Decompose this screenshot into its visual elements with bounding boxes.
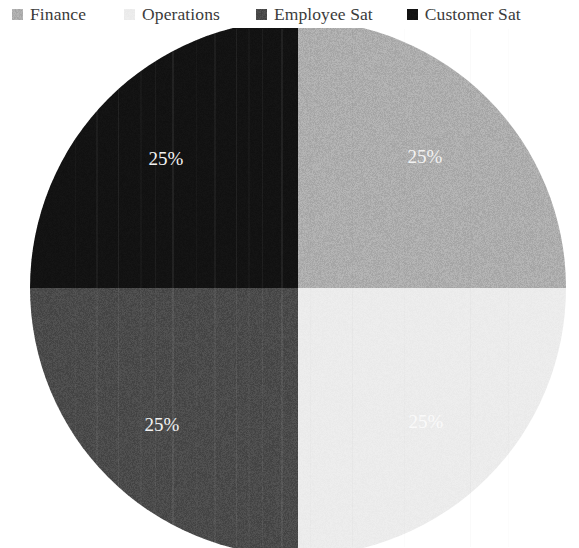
pie-slice-label: 25% [149,148,184,169]
chart-legend: Finance Operations Employee Sat Customer… [0,0,579,28]
chart-plot-area: 25% 25% 25% 25% [0,28,579,548]
pie-slice-label: 25% [408,146,443,167]
pie-slice-label: 25% [409,411,444,432]
legend-swatch-icon [124,9,135,20]
legend-swatch-icon [407,9,418,20]
legend-swatch-icon [256,9,267,20]
pie-chart: 25% 25% 25% 25% [30,28,566,548]
pie-chart-svg: 25% 25% 25% 25% [30,28,566,548]
legend-item-employee-sat[interactable]: Employee Sat [256,6,373,23]
legend-item-label: Finance [30,6,86,23]
pie-slice-label: 25% [145,414,180,435]
legend-item-finance[interactable]: Finance [12,6,86,23]
legend-item-customer-sat[interactable]: Customer Sat [407,6,521,23]
legend-item-operations[interactable]: Operations [124,6,220,23]
legend-item-label: Employee Sat [274,6,373,23]
legend-item-label: Customer Sat [425,6,521,23]
legend-item-label: Operations [142,6,220,23]
legend-swatch-icon [12,9,23,20]
